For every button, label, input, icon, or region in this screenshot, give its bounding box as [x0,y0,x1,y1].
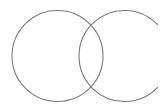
right-arc [79,10,158,101]
venn-diagram [0,0,161,112]
